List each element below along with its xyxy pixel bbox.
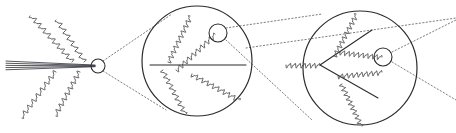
- stage-1-layer: [6, 16, 105, 119]
- stage-3-focus-circle: [374, 48, 392, 66]
- gluon-stage3-mid-right: [338, 70, 382, 79]
- stage-2-layer: [142, 6, 252, 116]
- parton-shower-diagram: [0, 0, 456, 133]
- figure-root: [0, 0, 456, 133]
- gluon-stage2-down-left: [160, 70, 187, 114]
- gluon-stage2-up-left: [168, 16, 191, 63]
- gluon-upper-mid: [55, 20, 86, 62]
- quark-line-lower: [320, 65, 378, 98]
- quark-line-upper: [320, 30, 372, 65]
- stage-3-layer: [286, 11, 417, 126]
- gluon-lower-left: [22, 71, 56, 119]
- guide-3-upper: [392, 20, 456, 52]
- guide-3-through: [246, 18, 456, 48]
- guide-1-lower: [103, 71, 166, 110]
- stage-2-focus-circle: [209, 24, 227, 42]
- gluon-stage3-down: [339, 84, 363, 126]
- gluon-stage2-down-right: [191, 74, 241, 100]
- gluon-stage2-up-right: [176, 33, 215, 72]
- guide-1-upper: [103, 14, 172, 61]
- guide-2-lower: [226, 40, 312, 120]
- gluon-lower-mid: [56, 71, 80, 116]
- stage-3-magnifier-circle: [303, 11, 417, 125]
- guide-3-lower: [392, 62, 456, 100]
- guide-2-upper: [226, 14, 322, 28]
